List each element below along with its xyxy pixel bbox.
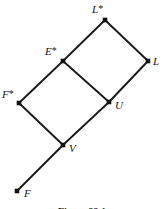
node-label-Estar: E* <box>45 45 57 57</box>
edge-Estar-U <box>63 61 109 102</box>
node-label-Lstar: L* <box>92 3 103 15</box>
node-L <box>146 59 151 64</box>
lattice-diagram <box>0 0 164 209</box>
edge-Fstar-V <box>19 103 63 145</box>
figure-container: L*LE*F*UVF Figure 22.1 <box>0 0 164 209</box>
node-Fstar <box>17 101 22 106</box>
figure-caption: Figure 22.1 <box>0 206 164 209</box>
node-label-U: U <box>115 100 123 111</box>
edge-Fstar-Estar <box>19 61 63 103</box>
star-superscript-icon: * <box>52 45 57 56</box>
edge-V-U <box>63 102 109 145</box>
node-U <box>107 100 112 105</box>
node-Lstar <box>103 18 108 23</box>
node-Estar <box>61 59 66 64</box>
edge-Lstar-L <box>105 20 148 61</box>
edge-Estar-Lstar <box>63 20 105 61</box>
edge-V-F <box>17 145 63 191</box>
edges-group <box>17 20 148 191</box>
node-label-Fstar: F* <box>2 88 14 100</box>
node-label-V: V <box>69 143 76 154</box>
edge-U-L <box>109 61 148 102</box>
node-label-F: F <box>24 188 31 199</box>
node-V <box>61 143 66 148</box>
node-label-L: L <box>153 56 159 67</box>
star-superscript-icon: * <box>98 3 103 14</box>
star-superscript-icon: * <box>9 88 14 99</box>
node-F <box>15 189 20 194</box>
